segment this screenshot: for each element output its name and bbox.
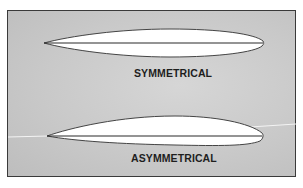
relative-wind-line-left bbox=[8, 136, 48, 137]
symmetrical-label: SYMMETRICAL bbox=[134, 67, 212, 79]
symmetrical-airfoil bbox=[44, 29, 264, 57]
relative-wind-line-right bbox=[250, 124, 296, 127]
asymmetrical-airfoil bbox=[47, 116, 263, 146]
asymmetrical-label: ASYMMETRICAL bbox=[131, 152, 217, 164]
